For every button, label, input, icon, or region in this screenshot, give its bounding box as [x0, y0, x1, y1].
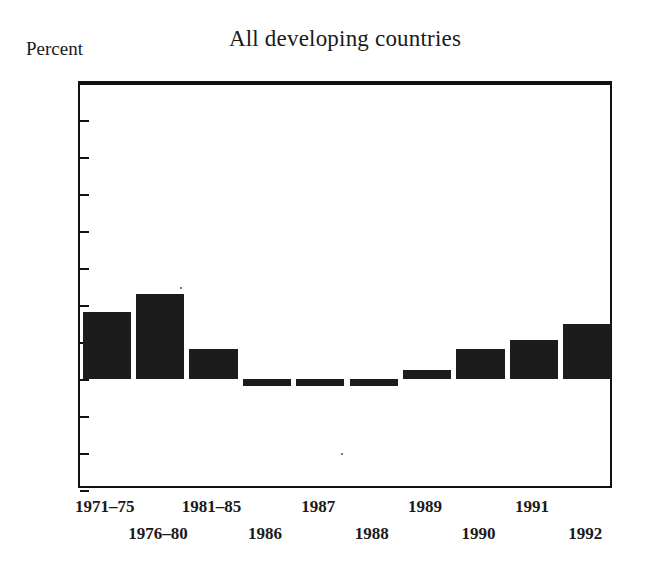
x-tick-label: 1981–85: [167, 498, 257, 515]
x-tick-label: 1987: [273, 498, 363, 515]
bar: [243, 379, 291, 386]
bar: [510, 340, 558, 379]
bar: [350, 379, 398, 386]
x-axis-tick-labels: 1971–751976–801981–851986198719881989199…: [78, 492, 612, 562]
x-tick-label: 1991: [487, 498, 577, 515]
bar: [563, 324, 611, 380]
bar: [83, 312, 131, 379]
chart-title: All developing countries: [78, 26, 612, 52]
y-axis-unit-label: Percent: [26, 38, 83, 60]
x-tick-label: 1990: [434, 525, 524, 542]
x-tick-label: 1971–75: [60, 498, 150, 515]
bar: [189, 349, 237, 379]
x-tick-label: 1989: [380, 498, 470, 515]
x-tick-label: 1976–80: [113, 525, 203, 542]
bar: [296, 379, 344, 386]
x-tick-label: 1988: [327, 525, 417, 542]
x-tick-label: 1986: [220, 525, 310, 542]
bar: [136, 294, 184, 379]
bars-layer: [80, 83, 610, 486]
bar: [403, 370, 451, 379]
x-tick-label: 1992: [540, 525, 630, 542]
plot-area: [78, 81, 612, 488]
bar-chart-figure: All developing countries Percent 8765432…: [0, 0, 649, 565]
bar: [456, 349, 504, 379]
